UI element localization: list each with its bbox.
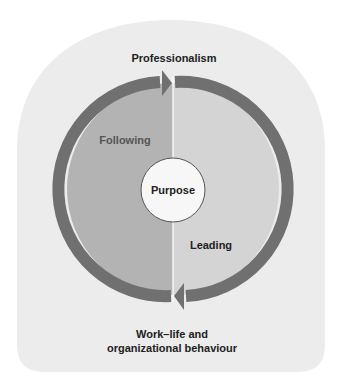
following-label: Following (99, 134, 150, 146)
leading-label: Leading (190, 239, 232, 251)
worklife-label-line2: organizational behaviour (107, 342, 238, 354)
purpose-label: Purpose (151, 184, 195, 196)
professionalism-label: Professionalism (132, 52, 217, 64)
worklife-label-line1: Work–life and (136, 328, 208, 340)
leadership-diagram: Professionalism Following Purpose Leadin… (0, 0, 342, 389)
